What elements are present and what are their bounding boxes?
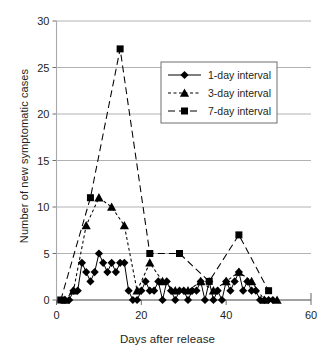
y-tick-label-20: 20 — [37, 108, 49, 120]
chart-plot-area: 05101520253002040601-day interval3-day i… — [0, 0, 335, 359]
data-point-s2-5 — [120, 221, 129, 229]
data-point-s1-8 — [95, 249, 103, 257]
data-point-s3-2 — [117, 45, 124, 52]
data-point-s3-1 — [87, 194, 94, 201]
data-point-s1-39 — [226, 287, 234, 295]
x-tick-label-40: 40 — [220, 309, 232, 321]
y-tick-label-25: 25 — [37, 62, 49, 74]
data-point-s1-6 — [86, 277, 94, 285]
y-tick-label-15: 15 — [37, 155, 49, 167]
data-point-s1-29 — [184, 296, 192, 304]
data-point-s1-37 — [218, 296, 226, 304]
data-point-s1-11 — [108, 259, 116, 267]
data-point-s1-7 — [91, 268, 99, 276]
x-tick-label-60: 60 — [305, 309, 317, 321]
data-point-s1-5 — [82, 268, 90, 276]
data-point-s1-40 — [231, 277, 239, 285]
y-tick-label-10: 10 — [37, 201, 49, 213]
chart-figure: Number of new symptomatic cases 05101520… — [0, 0, 335, 359]
data-point-s3-7 — [265, 287, 272, 294]
y-tick-label-30: 30 — [37, 15, 49, 27]
data-point-s2-3 — [94, 193, 103, 201]
data-point-s1-33 — [201, 296, 209, 304]
y-tick-label-5: 5 — [43, 248, 49, 260]
legend-marker-square-icon — [181, 108, 188, 115]
data-point-s2-7 — [145, 258, 154, 266]
data-point-s1-21 — [150, 287, 158, 295]
data-point-s3-4 — [176, 250, 183, 257]
data-point-s1-35 — [209, 296, 217, 304]
data-point-s1-4 — [78, 259, 86, 267]
series-line-2 — [65, 198, 277, 300]
data-point-s3-6 — [235, 231, 242, 238]
legend-label-2: 3-day interval — [208, 87, 271, 99]
x-axis-title: Days after release — [0, 333, 335, 345]
data-point-s1-31 — [192, 287, 200, 295]
legend-label-3: 7-day interval — [208, 105, 271, 117]
data-point-s1-42 — [239, 287, 247, 295]
y-tick-label-0: 0 — [43, 294, 49, 306]
data-point-s1-15 — [125, 287, 133, 295]
data-point-s3-5 — [206, 278, 213, 285]
data-point-s1-45 — [252, 287, 260, 295]
data-point-s1-12 — [112, 268, 120, 276]
data-point-s3-3 — [146, 250, 153, 257]
data-point-s1-10 — [103, 268, 111, 276]
data-point-s1-17 — [133, 296, 141, 304]
data-point-s1-26 — [171, 296, 179, 304]
data-point-s1-9 — [99, 259, 107, 267]
data-point-s1-14 — [120, 259, 128, 267]
legend-label-1: 1-day interval — [208, 69, 271, 81]
x-tick-label-20: 20 — [135, 309, 147, 321]
x-tick-label-0: 0 — [53, 309, 59, 321]
data-point-s1-23 — [158, 296, 166, 304]
data-point-s3-0 — [57, 297, 64, 304]
